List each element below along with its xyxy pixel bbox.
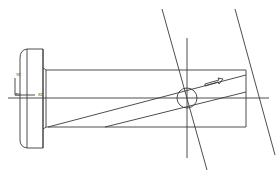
helical-slot bbox=[48, 75, 246, 127]
oblique-line-right bbox=[235, 9, 275, 155]
yc-label: YC bbox=[15, 72, 21, 77]
coordinate-triad: YC ZC XC bbox=[15, 72, 43, 97]
shaft-body bbox=[43, 68, 246, 129]
zc-label: ZC bbox=[15, 92, 21, 97]
flange-head bbox=[20, 49, 43, 148]
drawing-canvas: YC ZC XC bbox=[0, 0, 279, 173]
xc-label: XC bbox=[38, 92, 43, 97]
oblique-line-left bbox=[162, 9, 207, 170]
